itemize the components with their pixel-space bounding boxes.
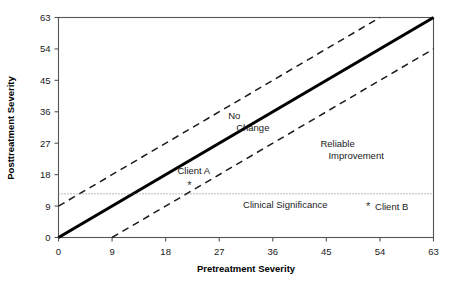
x-tick-label: 63 <box>428 246 439 257</box>
y-tick-label: 0 <box>45 232 50 243</box>
x-tick-label: 27 <box>214 246 225 257</box>
y-tick-label: 63 <box>40 12 51 23</box>
x-axis-ticks <box>59 238 434 242</box>
client-b-marker: * <box>366 200 371 212</box>
y-tick-label: 27 <box>40 138 51 149</box>
x-axis-tick-labels: 09182736455463 <box>56 246 439 257</box>
x-tick-label: 36 <box>267 246 278 257</box>
y-tick-label: 54 <box>40 43 51 54</box>
y-axis-title: Posttreatment Severity <box>5 76 16 180</box>
y-tick-label: 18 <box>40 169 51 180</box>
reliable-improvement-label-line1: Reliable <box>320 138 354 149</box>
clinical-significance-label-line1: Clinical Significance <box>243 199 327 210</box>
severity-scatter-chart: 09182736455463 09182736455463 *Client A*… <box>0 0 457 287</box>
x-tick-label: 18 <box>160 246 171 257</box>
x-tick-label: 0 <box>56 246 61 257</box>
x-tick-label: 54 <box>375 246 386 257</box>
no-change-label-line2: Change <box>236 122 269 133</box>
y-axis-ticks <box>55 18 59 238</box>
region-annotations-layer: NoChangeReliableImprovementClinical Sign… <box>228 110 384 210</box>
client-b-label: Client B <box>375 201 408 212</box>
client-a-label: Client A <box>177 165 210 176</box>
x-tick-label: 45 <box>321 246 332 257</box>
y-tick-label: 36 <box>40 106 51 117</box>
no-change-label-line1: No <box>228 110 240 121</box>
y-tick-label: 45 <box>40 75 51 86</box>
upper-reliable-change-band-line <box>59 18 380 207</box>
reliable-improvement-label-line2: Improvement <box>328 150 384 161</box>
x-axis-title: Pretreatment Severity <box>197 263 296 274</box>
chart-container: 09182736455463 09182736455463 *Client A*… <box>0 0 457 287</box>
y-tick-label: 9 <box>45 201 50 212</box>
y-axis-tick-labels: 09182736455463 <box>40 12 51 243</box>
client-a-marker: * <box>187 179 192 191</box>
x-tick-label: 9 <box>109 246 114 257</box>
